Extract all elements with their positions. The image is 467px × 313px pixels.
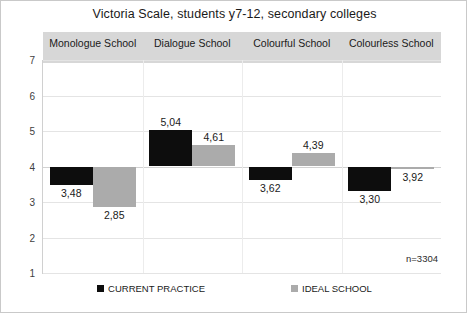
bar-value-label-current-practice-3: 3,62	[260, 182, 280, 194]
bar-value-label-current-practice-2: 5,04	[161, 116, 181, 128]
bar-value-label-ideal-school-3: 4,39	[303, 139, 323, 151]
chart-legend: CURRENT PRACTICE IDEAL SCHOOL	[1, 283, 467, 294]
gridline-1	[43, 273, 441, 274]
bar-value-label-ideal-school-4: 3,92	[403, 171, 423, 183]
legend-swatch-icon-ideal-school	[291, 285, 298, 292]
category-header-4: Colourless School	[342, 35, 442, 51]
y-axis-tick-2: 2	[1, 232, 35, 243]
bar-value-label-current-practice-4: 3,30	[360, 193, 380, 205]
bar-ideal-school-2	[192, 145, 235, 167]
category-header-band: Monologue SchoolDialogue SchoolColourful…	[43, 32, 441, 63]
y-axis-tick-3: 3	[1, 197, 35, 208]
y-axis-tick-1: 1	[1, 268, 35, 279]
sample-size-annotation: n=3304	[406, 253, 438, 264]
y-axis-tick-6: 6	[1, 90, 35, 101]
bar-ideal-school-4	[391, 167, 434, 170]
category-separator	[342, 60, 343, 273]
chart-container: Victoria Scale, students y7-12, secondar…	[0, 0, 467, 313]
legend-swatch-icon-current-practice	[97, 285, 104, 292]
legend-item-ideal-school: IDEAL SCHOOL	[291, 283, 372, 294]
bar-current-practice-4	[348, 167, 391, 192]
bar-current-practice-1	[50, 167, 93, 185]
category-separator	[242, 60, 243, 273]
legend-label-current-practice: CURRENT PRACTICE	[108, 283, 205, 294]
legend-item-current-practice: CURRENT PRACTICE	[97, 283, 205, 294]
bar-ideal-school-1	[93, 167, 136, 208]
bar-value-label-ideal-school-2: 4,61	[204, 131, 224, 143]
legend-label-ideal-school: IDEAL SCHOOL	[302, 283, 372, 294]
y-axis-tick-5: 5	[1, 126, 35, 137]
bar-value-label-ideal-school-1: 2,85	[104, 209, 124, 221]
bar-ideal-school-3	[292, 153, 335, 167]
bar-current-practice-3	[249, 167, 292, 180]
y-axis-tick-7: 7	[1, 55, 35, 66]
category-header-3: Colourful School	[242, 35, 342, 51]
category-separator	[143, 60, 144, 273]
y-axis-tick-4: 4	[1, 161, 35, 172]
chart-title: Victoria Scale, students y7-12, secondar…	[1, 7, 467, 21]
plot-area: 3,482,855,044,613,624,393,303,92	[43, 60, 441, 273]
bar-value-label-current-practice-1: 3,48	[61, 187, 81, 199]
category-header-2: Dialogue School	[143, 35, 243, 51]
bar-current-practice-2	[149, 130, 192, 167]
category-header-1: Monologue School	[43, 35, 143, 51]
